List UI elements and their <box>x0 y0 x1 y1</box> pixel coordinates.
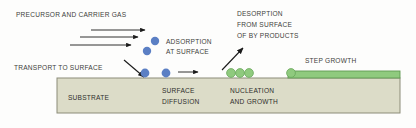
green-particle-2 <box>236 69 245 78</box>
label-desorption-line2: FROM SURFACE <box>237 21 292 28</box>
label-nucleation-line1: NUCLEATION <box>230 87 274 94</box>
label-substrate: SUBSTRATE <box>68 94 109 101</box>
green-particle-3 <box>245 69 254 78</box>
label-surface-diffusion-line2: DIFFUSION <box>162 98 200 105</box>
label-desorption-line3: OF BY PRODUCTS <box>237 32 299 39</box>
label-adsorption-line1: ADSORPTION <box>166 38 212 45</box>
blue-particle-3 <box>141 69 150 78</box>
label-precursor-and-carrier-gas: PRECURSOR AND CARRIER GAS <box>16 11 127 18</box>
label-desorption-line1: DESORPTION <box>237 10 283 17</box>
cvd-process-diagram: PRECURSOR AND CARRIER GAS TRANSPORT TO S… <box>0 0 416 128</box>
label-nucleation-line2: AND GROWTH <box>230 98 278 105</box>
step-growth-film <box>288 71 400 78</box>
desorption-arrow <box>222 48 243 70</box>
label-step-growth: STEP GROWTH <box>305 57 356 64</box>
blue-particle-2 <box>143 47 151 55</box>
blue-particle-4 <box>162 69 171 78</box>
label-surface-diffusion-line1: SURFACE <box>162 87 195 94</box>
step-growth-edge-particle <box>287 69 296 78</box>
blue-particle-1 <box>151 37 159 45</box>
green-particle-1 <box>227 69 236 78</box>
diagram-canvas: PRECURSOR AND CARRIER GAS TRANSPORT TO S… <box>0 0 416 128</box>
precursor-gas-arrows <box>70 30 145 45</box>
nucleation-cluster-particles <box>227 69 254 78</box>
label-transport-to-surface: TRANSPORT TO SURFACE <box>14 64 103 71</box>
label-adsorption-line2: AT SURFACE <box>166 48 209 55</box>
